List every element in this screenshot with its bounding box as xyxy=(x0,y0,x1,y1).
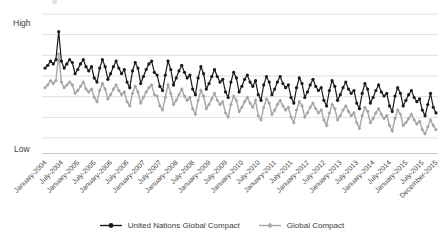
circle-marker-icon xyxy=(391,110,394,113)
circle-marker-icon xyxy=(385,92,388,95)
circle-marker-icon xyxy=(355,102,358,105)
circle-marker-icon xyxy=(139,82,142,85)
circle-marker-icon xyxy=(183,71,186,74)
circle-marker-icon xyxy=(153,71,156,74)
circle-marker-icon xyxy=(377,83,380,86)
circle-marker-icon xyxy=(254,79,257,82)
circle-marker-icon xyxy=(218,81,221,84)
diamond-marker-icon xyxy=(98,89,102,93)
circle-marker-icon xyxy=(341,86,344,89)
diamond-marker-icon xyxy=(229,103,233,107)
trend-chart: High Low January-2004July-2004January-20… xyxy=(0,0,443,248)
circle-marker-icon xyxy=(396,86,399,89)
circle-marker-icon xyxy=(361,92,364,95)
diamond-marker-icon xyxy=(163,96,167,100)
circle-marker-icon xyxy=(432,106,435,109)
circle-marker-icon xyxy=(125,81,128,84)
circle-marker-icon xyxy=(284,86,287,89)
circle-marker-icon xyxy=(169,68,172,71)
circle-marker-icon xyxy=(434,111,437,114)
circle-marker-icon xyxy=(317,89,320,92)
gc-legend-marker-icon xyxy=(258,221,282,230)
gc-series-line xyxy=(45,54,436,134)
legend-item-gc: Global Compact xyxy=(258,221,344,230)
diamond-marker-icon xyxy=(196,98,200,102)
circle-marker-icon xyxy=(309,83,312,86)
circle-marker-icon xyxy=(369,102,372,105)
circle-marker-icon xyxy=(76,68,79,71)
circle-marker-icon xyxy=(87,69,90,72)
circle-marker-icon xyxy=(90,65,93,68)
circle-marker-icon xyxy=(358,107,361,110)
circle-marker-icon xyxy=(65,62,68,65)
circle-marker-icon xyxy=(388,104,391,107)
circle-marker-icon xyxy=(43,67,46,70)
circle-marker-icon xyxy=(104,65,107,68)
circle-marker-icon xyxy=(399,92,402,95)
legend: United Nations Global Compact Global Com… xyxy=(0,221,443,230)
circle-marker-icon xyxy=(415,100,418,103)
circle-marker-icon xyxy=(194,93,197,96)
circle-marker-icon xyxy=(268,81,271,84)
circle-marker-icon xyxy=(328,89,331,92)
circle-marker-icon xyxy=(311,78,314,81)
circle-marker-icon xyxy=(363,82,366,85)
circle-marker-icon xyxy=(289,96,292,99)
circle-marker-icon xyxy=(106,78,109,81)
circle-marker-icon xyxy=(172,83,175,86)
circle-marker-icon xyxy=(366,88,369,91)
circle-marker-icon xyxy=(229,81,232,84)
circle-marker-icon xyxy=(298,76,301,79)
circle-marker-icon xyxy=(46,64,49,67)
circle-marker-icon xyxy=(117,67,120,70)
circle-marker-icon xyxy=(418,97,421,100)
circle-marker-icon xyxy=(114,60,117,63)
circle-marker-icon xyxy=(207,82,210,85)
circle-marker-icon xyxy=(71,61,74,64)
circle-marker-icon xyxy=(84,65,87,68)
circle-marker-icon xyxy=(402,104,405,107)
circle-marker-icon xyxy=(429,92,432,95)
circle-marker-icon xyxy=(270,93,273,96)
circle-marker-icon xyxy=(145,68,148,71)
circle-marker-icon xyxy=(413,96,416,99)
chart-figure: { "page": { "background": "#ffffff", "to… xyxy=(0,0,443,248)
circle-marker-icon xyxy=(344,81,347,84)
circle-marker-icon xyxy=(210,75,213,78)
circle-marker-icon xyxy=(251,85,254,88)
circle-marker-icon xyxy=(243,78,246,81)
diamond-marker-icon xyxy=(166,83,170,87)
circle-marker-icon xyxy=(347,88,350,91)
circle-marker-icon xyxy=(259,99,262,102)
circle-marker-icon xyxy=(221,78,224,81)
x-axis-tick-labels: January-2004July-2004January-2005July-20… xyxy=(12,159,438,200)
circle-marker-icon xyxy=(191,88,194,91)
gridlines xyxy=(42,14,438,138)
circle-marker-icon xyxy=(79,62,82,65)
circle-marker-icon xyxy=(216,75,219,78)
series-ungc xyxy=(43,30,437,117)
y-axis-high-label: High xyxy=(13,18,31,28)
circle-marker-icon xyxy=(325,104,328,107)
circle-marker-icon xyxy=(287,83,290,86)
circle-marker-icon xyxy=(101,58,104,61)
circle-marker-icon xyxy=(128,86,131,89)
circle-marker-icon xyxy=(164,74,167,77)
circle-marker-icon xyxy=(303,96,306,99)
circle-marker-icon xyxy=(374,89,377,92)
circle-marker-icon xyxy=(352,89,355,92)
circle-marker-icon xyxy=(336,99,339,102)
diamond-marker-icon xyxy=(254,98,258,102)
circle-marker-icon xyxy=(95,81,98,84)
circle-marker-icon xyxy=(339,93,342,96)
circle-marker-icon xyxy=(380,90,383,93)
circle-marker-icon xyxy=(57,30,60,33)
circle-marker-icon xyxy=(306,90,309,93)
ungc-series-line xyxy=(45,32,436,116)
circle-marker-icon xyxy=(158,85,161,88)
circle-marker-icon xyxy=(52,62,55,65)
circle-marker-icon xyxy=(123,68,126,71)
circle-marker-icon xyxy=(186,76,189,79)
circle-marker-icon xyxy=(199,65,202,68)
circle-marker-icon xyxy=(63,67,66,70)
